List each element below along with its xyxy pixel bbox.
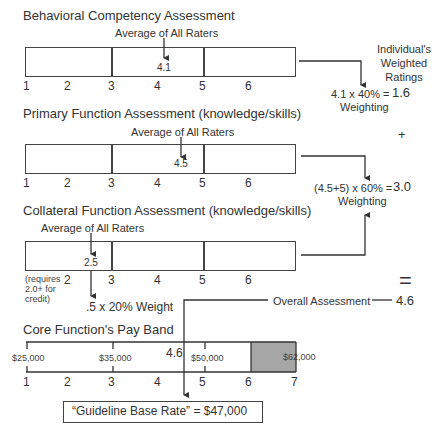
overall-to-guideline-arrow (184, 300, 268, 395)
primary-to-weighting-arrow (301, 156, 365, 178)
collateral-to-weighting-arrow (301, 215, 365, 255)
connector-lines (0, 0, 438, 437)
behavioral-to-weighting-arrow (299, 61, 361, 85)
